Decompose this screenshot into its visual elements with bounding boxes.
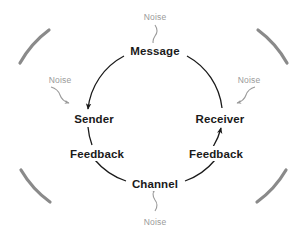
field-arc-right-top: [258, 30, 287, 63]
field-arc-left-bottom: [21, 170, 50, 202]
flow-arc-feedback-right-to-receiver: [213, 128, 221, 147]
noise-left-label: Noise: [49, 75, 72, 85]
noise-bottom-group: Noise: [144, 189, 167, 227]
node-label-feedback-left: Feedback: [70, 148, 124, 160]
noise-right-squiggle-arrow: [237, 87, 255, 103]
node-label-receiver: Receiver: [196, 113, 245, 125]
noise-right-group: Noise: [237, 75, 260, 103]
node-label-channel: Channel: [132, 178, 178, 190]
flow-arc-channel-to-feedback-right: [185, 160, 215, 181]
noise-right-label: Noise: [238, 75, 261, 85]
field-of-experience-left: Field of experience: [0, 30, 50, 202]
noise-bottom-squiggle-arrow: [153, 189, 157, 211]
communication-model-diagram: Field of experience Field of experience: [0, 0, 307, 233]
node-label-message: Message: [130, 45, 179, 57]
cycle-node-labels: Message Sender Receiver Feedback Feedbac…: [66, 43, 249, 191]
node-label-sender: Sender: [74, 113, 114, 125]
field-arc-left-top: [20, 30, 49, 63]
noise-left-group: Noise: [49, 75, 72, 103]
flow-arc-sender-to-feedback-left: [88, 127, 92, 145]
flow-arc-message-to-sender: [88, 56, 124, 109]
flow-arc-feedback-left-to-channel: [95, 160, 126, 181]
diagram-canvas: Field of experience Field of experience: [0, 0, 307, 233]
noise-bottom-label: Noise: [144, 217, 167, 227]
field-of-experience-right: Field of experience: [257, 30, 307, 202]
node-label-feedback-right: Feedback: [189, 148, 243, 160]
flow-arc-receiver-to-message: [187, 56, 222, 108]
field-arc-right-bottom: [257, 170, 286, 202]
noise-left-squiggle-arrow: [51, 87, 69, 103]
noise-top-group: Noise: [144, 12, 167, 47]
noise-top-label: Noise: [144, 12, 167, 22]
